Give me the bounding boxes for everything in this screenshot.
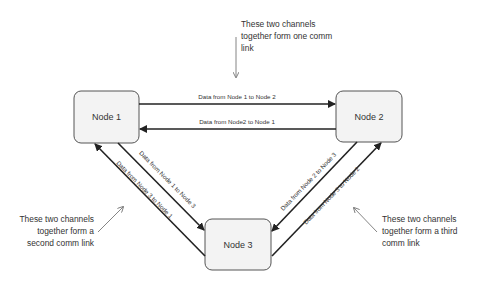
node-1: Node 1 (74, 91, 139, 143)
node-2-label: Node 2 (354, 112, 383, 122)
arrow-down-right-icon (118, 143, 204, 230)
annotation-left: These two channels together form a secon… (20, 214, 95, 249)
annotation-right: These two channels together form a third… (382, 214, 457, 249)
left-pointer-arrow-icon (98, 207, 123, 232)
channel-label: Data from Node 1 to Node 2 (198, 93, 276, 100)
channel-node2-to-node1: Data from Node2 to Node 1 (140, 118, 336, 129)
node-2: Node 2 (336, 91, 402, 142)
channel-node1-to-node3: Data from Node 1 to Node 3 (118, 143, 204, 230)
node-3: Node 3 (205, 219, 271, 270)
channel-node1-to-node2: Data from Node 1 to Node 2 (139, 93, 335, 104)
annotation-line: together form a third (382, 226, 457, 238)
right-pointer-arrow-icon (354, 208, 377, 232)
channel-label: Data from Node 3 to Node 1 (115, 159, 175, 220)
node-3-label: Node 3 (223, 240, 252, 250)
annotation-line: These two channels (241, 19, 332, 31)
node-1-label: Node 1 (92, 112, 121, 122)
annotation-line: link (241, 43, 332, 55)
annotation-line: second comm link (20, 238, 95, 250)
channel-label: Data from Node 1 to Node 3 (138, 149, 198, 209)
annotation-line: together form one comm (241, 31, 332, 43)
annotation-line: These two channels (382, 214, 457, 226)
annotation-line: together form a (20, 226, 95, 238)
channel-label: Data from Node2 to Node 1 (199, 118, 275, 125)
annotation-top: These two channels together form one com… (241, 19, 332, 54)
annotation-line: These two channels (20, 214, 95, 226)
annotation-line: comm link (382, 238, 457, 250)
